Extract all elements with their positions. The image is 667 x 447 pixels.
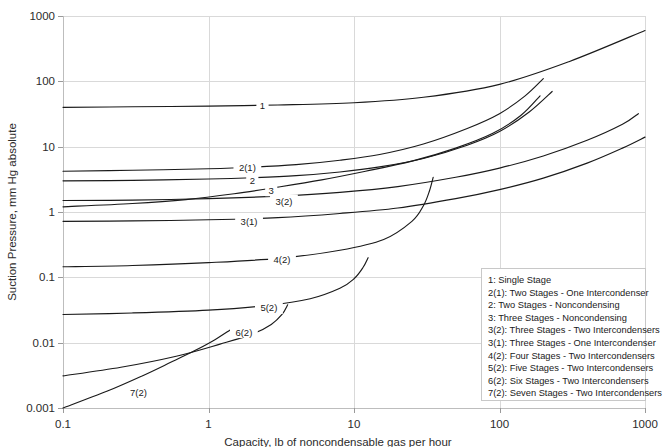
x-tick-label: 1	[205, 418, 211, 430]
y-tick-label: 100	[36, 75, 55, 87]
curve-label-5(2): 5(2)	[260, 302, 277, 313]
chart-container: 12(1)233(2)3(1)4(2)5(2)6(2)7(2) 0.0010.0…	[0, 0, 667, 447]
x-tick-label: 100	[490, 418, 509, 430]
curve-6(2)	[63, 305, 288, 376]
curve-label-3(2): 3(2)	[275, 196, 292, 207]
legend-entry-2: 2: Two Stages - Noncondensing	[488, 300, 620, 310]
legend-entry-3(2): 3(2): Three Stages - Two Intercondensers	[488, 325, 660, 335]
legend-entry-6(2): 6(2): Six Stages - Two Intercondensers	[488, 376, 649, 386]
curve-label-1: 1	[260, 100, 265, 111]
y-tick-label: 0.001	[26, 402, 55, 414]
curve-label-6(2): 6(2)	[235, 327, 252, 338]
legend-entry-3(1): 3(1): Three Stages - One Intercondenser	[488, 338, 656, 348]
x-tick-label: 1000	[632, 418, 658, 430]
legend-entry-1: 1: Single Stage	[488, 275, 551, 285]
x-tick-label: 10	[348, 418, 361, 430]
axis-titles: Capacity, lb of noncondensable gas per h…	[6, 123, 452, 447]
y-axis-title: Suction Pressure, mm Hg absolute	[6, 123, 18, 301]
curve-label-7(2): 7(2)	[130, 387, 147, 398]
y-tick-label: 0.1	[39, 271, 55, 283]
curve-label-3(1): 3(1)	[241, 216, 258, 227]
y-tick-label: 1000	[29, 10, 55, 22]
y-tick-label: 1	[49, 206, 55, 218]
legend-entry-2(1): 2(1): Two Stages - One Intercondenser	[488, 288, 649, 298]
legend-entry-5(2): 5(2): Five Stages - Two Intercondensers	[488, 363, 654, 373]
y-tick-label: 0.01	[33, 337, 55, 349]
legend: 1: Single Stage2(1): Two Stages - One In…	[482, 269, 663, 401]
curve-label-3: 3	[269, 185, 274, 196]
x-axis-title: Capacity, lb of noncondensable gas per h…	[224, 436, 452, 447]
legend-entry-4(2): 4(2): Four Stages - Two Intercondensers	[488, 351, 655, 361]
legend-entry-7(2): 7(2): Seven Stages - Two Intercondensers	[488, 388, 662, 398]
x-tick-label: 0.1	[55, 418, 71, 430]
curve-3	[63, 96, 540, 207]
curve-label-2: 2	[250, 175, 255, 186]
curve-label-4(2): 4(2)	[274, 254, 291, 265]
curve-label-2(1): 2(1)	[239, 162, 256, 173]
y-tick-label: 10	[42, 141, 55, 153]
legend-entry-3: 3: Three Stages - Noncondensing	[488, 313, 627, 323]
curve-labels: 12(1)233(2)3(1)4(2)5(2)6(2)7(2)	[125, 99, 298, 398]
curve-3(2)	[63, 114, 638, 201]
log-log-chart: 12(1)233(2)3(1)4(2)5(2)6(2)7(2) 0.0010.0…	[0, 0, 667, 447]
curve-2(1)	[63, 79, 543, 172]
